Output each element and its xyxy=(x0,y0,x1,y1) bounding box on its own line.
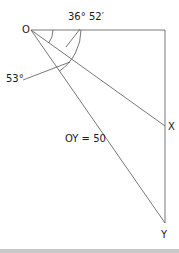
label-angle-small: 36° 52′ xyxy=(68,11,105,22)
line-ox xyxy=(31,30,165,126)
angle-arc-small xyxy=(49,30,53,43)
label-angle-large: 53° xyxy=(6,73,24,84)
bottom-bar xyxy=(0,249,179,253)
label-point-x: X xyxy=(168,121,175,132)
label-length-oy: OY = 50 xyxy=(65,133,106,144)
line-oy xyxy=(31,30,165,223)
geometry-diagram: O 36° 52′ 53° X OY = 50 Y xyxy=(0,0,179,249)
leader-angle-large xyxy=(23,62,70,80)
leader-angle-small xyxy=(66,29,80,47)
label-point-y: Y xyxy=(160,229,168,240)
label-origin: O xyxy=(22,24,30,35)
